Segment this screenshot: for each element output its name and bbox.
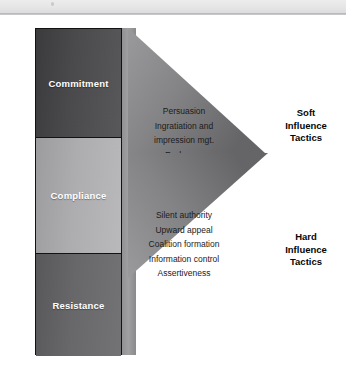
soft-tactic-item: Ingratiation and	[128, 119, 240, 134]
diagram-page: Commitment Compliance Resistance	[0, 0, 346, 377]
hard-tactics-list: Silent authority Upward appeal Coalition…	[128, 208, 240, 281]
influence-tactics-diagram: Commitment Compliance Resistance	[0, 15, 346, 377]
outcome-block-commitment: Commitment	[36, 29, 121, 137]
soft-influence-tactics-caption: Soft Influence Tactics	[268, 107, 344, 145]
hard-tactic-item: Information control	[128, 252, 240, 267]
outcome-column: Commitment Compliance Resistance	[35, 28, 122, 355]
outcome-label-commitment: Commitment	[48, 78, 108, 89]
hard-tactics-arrow: Silent authority Upward appeal Coalition…	[128, 153, 268, 278]
outcome-block-resistance: Resistance	[36, 253, 121, 356]
caption-line: Influence	[268, 120, 344, 133]
soft-tactic-item: impression mgt.	[128, 133, 240, 148]
soft-tactic-item: Persuasion	[128, 104, 240, 119]
hard-tactic-item: Coalition formation	[128, 237, 240, 252]
hard-tactic-item: Assertiveness	[128, 266, 240, 281]
caption-line: Influence	[268, 244, 344, 257]
soft-tactics-arrow: Persuasion Ingratiation and impression m…	[128, 28, 268, 153]
outcome-block-compliance: Compliance	[36, 137, 121, 253]
caption-line: Hard	[268, 231, 344, 244]
outcome-label-resistance: Resistance	[52, 300, 104, 311]
header-speck	[51, 2, 54, 6]
caption-line: Soft	[268, 107, 344, 120]
caption-line: Tactics	[268, 256, 344, 269]
hard-tactic-item: Silent authority	[128, 208, 240, 223]
hard-tactic-item: Upward appeal	[128, 223, 240, 238]
outcome-label-compliance: Compliance	[51, 190, 107, 201]
caption-line: Tactics	[268, 132, 344, 145]
hard-influence-tactics-caption: Hard Influence Tactics	[268, 231, 344, 269]
